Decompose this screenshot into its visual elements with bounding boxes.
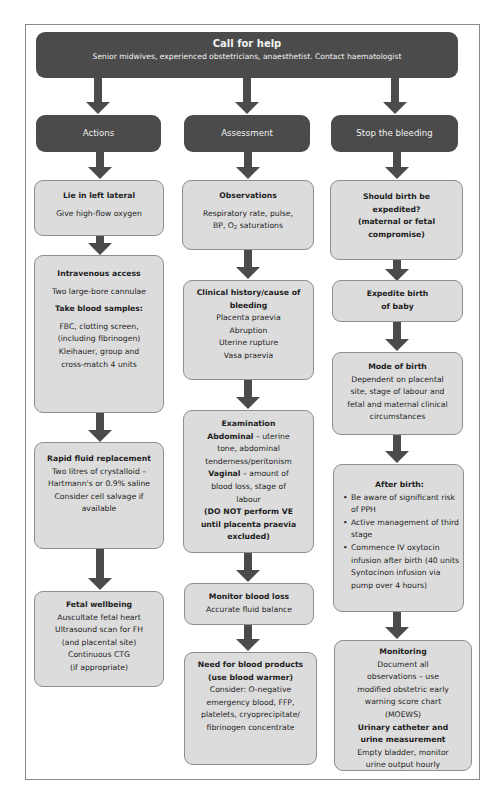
box-after-birth: After birth: Be aware of significant ris… bbox=[333, 464, 464, 612]
box-title: Lie in left lateral bbox=[38, 190, 160, 203]
list-item: Active management of third stage bbox=[342, 517, 459, 542]
box-blood-products: Need for blood products (use blood warme… bbox=[184, 652, 317, 765]
figure-caption bbox=[40, 784, 460, 796]
box-expedite-birth: Expedite birth of baby bbox=[332, 280, 463, 322]
box-should-birth-be-expedited: Should birth be expedited? (maternal or … bbox=[330, 180, 463, 260]
box-title: Observations bbox=[186, 190, 310, 203]
box-title: Should birth be bbox=[334, 191, 459, 204]
banner-subtitle: Senior midwives, experienced obstetricia… bbox=[36, 51, 458, 63]
box-mode-of-birth: Mode of birth Dependent on placental sit… bbox=[332, 352, 463, 435]
list-item: Be aware of significant risk of PPH bbox=[342, 492, 459, 517]
box-subtitle: Urinary catheter and bbox=[338, 722, 468, 735]
box-examination: Examination Abdominal – uterine tone, ab… bbox=[183, 410, 314, 553]
box-rapid-fluid-replacement: Rapid fluid replacement Two litres of cr… bbox=[34, 442, 164, 549]
column-header-stop-bleeding: Stop the bleeding bbox=[331, 115, 458, 152]
box-observations: Observations Respiratory rate, pulse, BP… bbox=[182, 180, 314, 250]
box-title: Fetal wellbeing bbox=[38, 599, 160, 612]
box-monitor-blood-loss: Monitor blood loss Accurate fluid balanc… bbox=[184, 583, 314, 625]
box-title: Intravenous access bbox=[38, 268, 160, 281]
banner-title: Call for help bbox=[36, 37, 458, 51]
box-title: Expedite birth bbox=[336, 288, 459, 301]
box-title: Monitoring bbox=[338, 646, 468, 659]
column-header-assessment: Assessment bbox=[184, 115, 310, 152]
box-fetal-wellbeing: Fetal wellbeing Auscultate fetal heart U… bbox=[34, 591, 164, 687]
box-title: Clinical history/cause of bbox=[187, 287, 310, 300]
box-lie-left-lateral: Lie in left lateral Give high-flow oxyge… bbox=[34, 180, 164, 236]
box-subtitle: Take blood samples: bbox=[38, 303, 160, 316]
box-monitoring: Monitoring Document all observations – u… bbox=[334, 640, 472, 771]
box-title: Examination bbox=[187, 418, 310, 431]
box-clinical-history: Clinical history/cause of bleeding Place… bbox=[183, 280, 314, 380]
box-title: Monitor blood loss bbox=[188, 591, 310, 604]
box-title: Mode of birth bbox=[336, 361, 459, 374]
list-item: Commence IV oxytocin infusion after birt… bbox=[342, 542, 459, 592]
box-title: Rapid fluid replacement bbox=[38, 453, 160, 466]
call-for-help-banner: Call for help Senior midwives, experienc… bbox=[36, 32, 458, 78]
column-header-actions: Actions bbox=[36, 115, 161, 152]
box-title: Need for blood products bbox=[188, 659, 313, 672]
box-intravenous-access: Intravenous access Two large-bore cannul… bbox=[34, 255, 164, 413]
warning-text: (DO NOT perform VE bbox=[187, 506, 310, 519]
after-birth-list: Be aware of significant risk of PPH Acti… bbox=[340, 492, 459, 593]
box-title: After birth: bbox=[340, 479, 459, 492]
